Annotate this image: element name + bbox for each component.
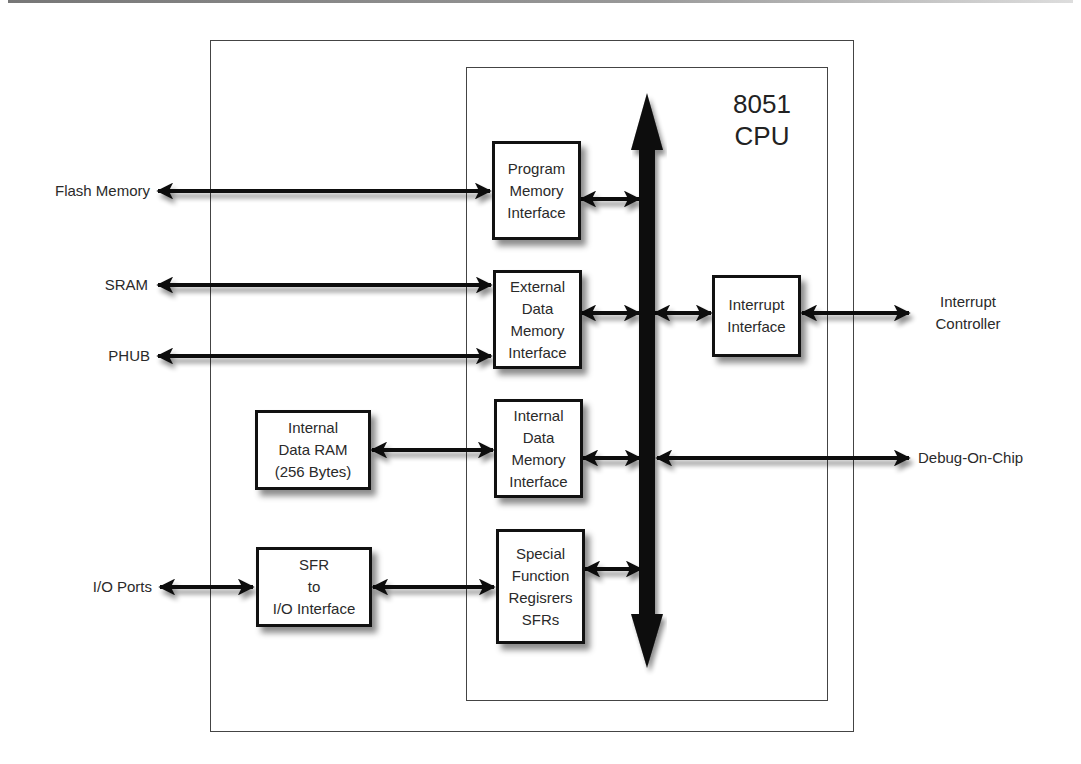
label-phub: PHUB: [60, 345, 150, 367]
block-program-memory-interface: Program Memory Interface: [492, 141, 581, 240]
label-debug-on-chip: Debug-On-Chip: [918, 447, 1058, 469]
cpu-bus-arrow: [631, 93, 663, 668]
block-internal-data-ram: Internal Data RAM (256 Bytes): [255, 410, 371, 490]
block-internal-data-memory-interface: Internal Data Memory Interface: [494, 399, 583, 498]
label-interrupt-controller: Interrupt Controller: [918, 291, 1018, 335]
block-sfr-to-io-interface: SFR to I/O Interface: [256, 547, 372, 627]
block-special-function-registers: Special Function Regisrers SFRs: [496, 529, 585, 644]
label-io-ports: I/O Ports: [60, 576, 152, 598]
block-interrupt-interface: Interrupt Interface: [712, 275, 801, 357]
connection-arrows: [0, 0, 1081, 764]
block-external-data-memory-interface: External Data Memory Interface: [493, 270, 582, 369]
label-sram: SRAM: [60, 274, 148, 296]
label-flash-memory: Flash Memory: [32, 180, 150, 202]
